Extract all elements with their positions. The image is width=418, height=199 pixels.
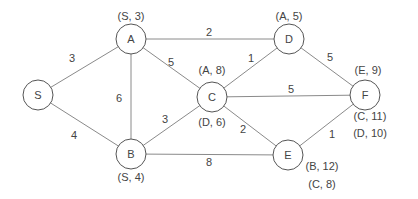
- edge-s-a: [38, 39, 131, 95]
- edge-weight-c-e: 2: [240, 123, 246, 135]
- edge-weight-d-f: 5: [327, 51, 333, 63]
- edge-weight-b-e: 8: [206, 156, 212, 168]
- node-d: D: [274, 24, 304, 54]
- shortest-path-graph: 346523815251 SABCDEF (S, 3)(S, 4)(A, 8)(…: [0, 0, 418, 199]
- node-s: S: [23, 80, 53, 110]
- node-label-d: D: [285, 33, 293, 45]
- node-label-f: F: [362, 89, 369, 101]
- node-label-b: B: [127, 148, 134, 160]
- node-annotation-a: (S, 3): [118, 10, 145, 22]
- edge-weight-a-c: 5: [168, 56, 174, 68]
- node-annotation-b: (S, 4): [118, 171, 145, 183]
- node-annotation-d: (A, 5): [276, 10, 303, 22]
- edge-weight-s-a: 3: [69, 52, 75, 64]
- edge-weight-a-d: 2: [206, 26, 212, 38]
- nodes: SABCDEF: [23, 24, 380, 170]
- node-label-a: A: [127, 33, 135, 45]
- node-annotation-e: (C, 8): [308, 178, 336, 190]
- edge-weight-e-f: 1: [329, 128, 335, 140]
- edge-weight-c-d: 1: [248, 52, 254, 64]
- edge-weight-c-f: 5: [288, 83, 294, 95]
- edge-weight-s-b: 4: [71, 129, 77, 141]
- edge-weight-a-b: 6: [116, 92, 122, 104]
- edge-b-e: [131, 154, 288, 155]
- node-annotation-f: (D, 10): [353, 127, 387, 139]
- node-c: C: [197, 82, 227, 112]
- node-annotations: (S, 3)(S, 4)(A, 8)(D, 6)(A, 5)(B, 12)(C,…: [118, 10, 387, 190]
- node-annotation-c: (A, 8): [199, 64, 226, 76]
- node-b: B: [116, 139, 146, 169]
- node-e: E: [273, 140, 303, 170]
- node-label-c: C: [208, 91, 216, 103]
- node-a: A: [116, 24, 146, 54]
- node-annotation-e: (B, 12): [305, 160, 338, 172]
- edge-c-f: [212, 95, 365, 97]
- node-annotation-f: (C, 11): [354, 110, 387, 122]
- node-annotation-f: (E, 9): [355, 64, 382, 76]
- edge-weight-b-c: 3: [162, 113, 168, 125]
- node-f: F: [350, 80, 380, 110]
- node-label-e: E: [284, 149, 291, 161]
- node-label-s: S: [34, 89, 41, 101]
- node-annotation-c: (D, 6): [198, 116, 226, 128]
